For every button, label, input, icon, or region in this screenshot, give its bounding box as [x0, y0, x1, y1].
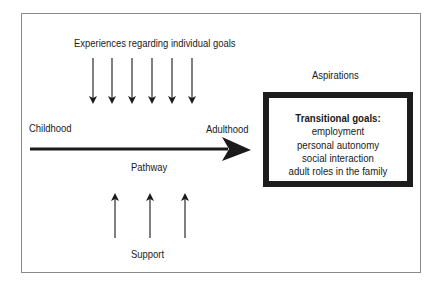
support-label: Support	[131, 248, 164, 261]
goal-item: adult roles in the family	[280, 165, 396, 178]
goals-title: Transitional goals:	[280, 112, 396, 125]
goal-item: personal autonomy	[280, 139, 396, 152]
pathway-arrow-icon	[30, 137, 251, 161]
transitional-goals-box: Transitional goals: employment personal …	[263, 92, 413, 187]
experiences-label: Experiences regarding individual goals	[74, 37, 235, 50]
adulthood-label: Adulthood	[206, 123, 248, 136]
pathway-label: Pathway	[131, 161, 167, 174]
childhood-label: Childhood	[29, 122, 71, 135]
aspirations-label: Aspirations	[312, 69, 359, 82]
experience-arrows	[93, 58, 192, 100]
goal-item: employment	[280, 125, 396, 138]
goal-item: social interaction	[280, 152, 396, 165]
support-arrows	[115, 197, 185, 238]
